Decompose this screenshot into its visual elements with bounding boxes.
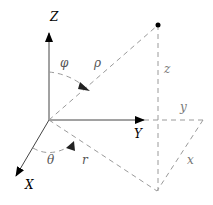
x-leg-line	[157, 120, 203, 191]
spherical-coordinates-diagram: Z Y X φ θ ρ r z y x	[0, 0, 213, 205]
rho-line	[49, 25, 158, 120]
x-distance-label: x	[187, 154, 194, 166]
theta-label: θ	[47, 154, 54, 166]
x-axis-label: X	[25, 179, 34, 191]
rho-label: ρ	[94, 57, 101, 69]
z-axis-label: Z	[50, 11, 58, 23]
point	[156, 23, 161, 28]
phi-arrowhead	[78, 82, 90, 91]
theta-arc	[33, 146, 70, 153]
y-axis-label: Y	[134, 128, 142, 140]
z-distance-label: z	[164, 63, 170, 75]
r-label: r	[82, 154, 88, 166]
x-axis	[16, 120, 49, 176]
phi-label: φ	[60, 57, 68, 69]
y-distance-label: y	[180, 101, 187, 113]
theta-arrowhead	[66, 141, 75, 151]
